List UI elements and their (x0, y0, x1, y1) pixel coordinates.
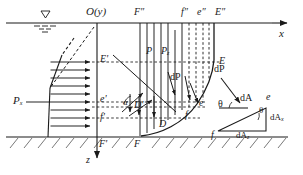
left-resultant-label: Px (13, 95, 22, 106)
point-D: D (159, 119, 166, 129)
inset-dP-label: dP (214, 64, 225, 74)
left-resultant-subscript: x (20, 100, 23, 106)
inset-dAx-symbol: dA (270, 112, 281, 122)
figure-canvas: O(y) x z F″ f″ e″ E″ E' e' f' F' Px P Pz… (0, 0, 303, 175)
origin-label: O(y) (86, 6, 106, 17)
inset-dAz-symbol: dA (236, 130, 247, 140)
inset-vertex-e: e (266, 92, 270, 102)
inset-vertex-f: f (211, 130, 214, 140)
water-surface-symbol (34, 11, 56, 32)
point-E-prime: E' (100, 54, 108, 64)
pressure-Pz-label: Pz (161, 46, 169, 56)
inset-dAz-label: dAz (236, 131, 249, 140)
point-F-double-prime: F″ (134, 7, 144, 17)
point-F: F (134, 139, 140, 149)
left-pressure-distribution (26, 38, 90, 137)
z-axis-label: z (86, 155, 90, 165)
point-f: f (185, 110, 188, 120)
point-F-prime: F' (99, 139, 107, 149)
inset-theta-right: θ (259, 106, 263, 115)
origin-oblique-dashed-line (50, 27, 94, 88)
vertical-dashed-lines (189, 23, 209, 108)
figure-vector-layer (0, 0, 303, 175)
point-f-double-prime: f″ (181, 7, 188, 17)
dP-label-main: dP (170, 72, 181, 82)
inset-dAx-subscript: x (281, 116, 284, 122)
inset-dA-label: dA (240, 93, 252, 103)
inset-theta-left: θ (218, 99, 223, 109)
point-f-prime: f' (100, 112, 105, 122)
alpha-angle-label: α (123, 98, 128, 107)
left-resultant-symbol: P (13, 94, 20, 106)
pressure-Pz-subscript: z (167, 50, 169, 56)
inset-dAz-subscript: z (247, 134, 249, 140)
point-e: e (199, 98, 203, 108)
point-e-prime: e' (100, 94, 107, 104)
x-axis-label: x (279, 28, 284, 39)
inset-dAx-label: dAx (270, 113, 284, 122)
point-E-double-prime: E″ (215, 7, 225, 17)
pressure-P-label: P (146, 46, 152, 56)
point-e-double-prime: e″ (197, 7, 206, 17)
point-D-prime: D' (134, 100, 143, 110)
horizontal-projection-dashed-lines (92, 62, 221, 118)
